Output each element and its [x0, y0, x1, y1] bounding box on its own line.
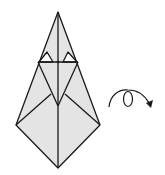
turn-over-arrow-icon	[109, 90, 153, 108]
center-point	[57, 61, 60, 64]
origami-diagram	[0, 0, 165, 175]
origami-model	[16, 12, 100, 168]
